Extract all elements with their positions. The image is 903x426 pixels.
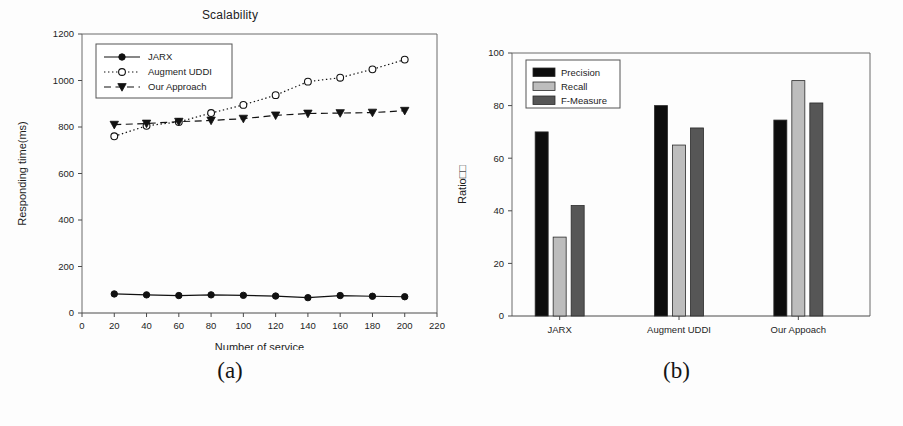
chart-b-legend-item[interactable]: F-Measure xyxy=(533,95,607,106)
chart-b-bar xyxy=(792,81,805,316)
chart-b-y-tick-label: 40 xyxy=(493,205,504,216)
chart-a-data-point xyxy=(337,292,343,298)
chart-a-x-tick-label: 200 xyxy=(397,320,413,331)
chart-a-x-tick-label: 0 xyxy=(79,320,84,331)
chart-a-x-tick-label: 60 xyxy=(174,320,185,331)
chart-a-data-point xyxy=(208,292,214,298)
chart-a-y-tick-label: 1200 xyxy=(53,28,74,39)
chart-b-y-axis-title: Ratio□□ xyxy=(456,165,468,204)
chart-a-series-jarx xyxy=(111,291,408,301)
chart-a-x-tick-label: 80 xyxy=(206,320,217,331)
panel-b-caption: (b) xyxy=(450,358,903,384)
chart-a-x-tick-label: 180 xyxy=(365,320,381,331)
chart-a-data-point xyxy=(369,66,376,73)
chart-a-plot: 0200400600800100012000204060801001201401… xyxy=(0,0,460,350)
chart-b-legend-label: Recall xyxy=(561,81,587,92)
chart-b-legend-label: Precision xyxy=(561,67,600,78)
chart-a-x-tick-label: 100 xyxy=(235,320,251,331)
chart-a-legend: JARXAugment UDDIOur Approach xyxy=(96,44,232,98)
chart-a-data-point xyxy=(305,294,311,300)
chart-a-y-tick-label: 0 xyxy=(69,307,74,318)
chart-a-data-point xyxy=(111,133,118,140)
chart-b-y-tick-label: 80 xyxy=(493,100,504,111)
chart-a-legend-label: Our Approach xyxy=(148,81,207,92)
chart-a-data-point xyxy=(272,92,279,99)
chart-b-legend-label: F-Measure xyxy=(561,95,607,106)
chart-b-group-our-appoach xyxy=(774,81,823,316)
chart-b-bar xyxy=(810,103,823,316)
chart-a-data-point xyxy=(208,110,215,117)
chart-b-legend-swatch xyxy=(533,96,555,105)
chart-b-legend-item[interactable]: Precision xyxy=(533,67,600,78)
chart-b-y-tick-label: 100 xyxy=(488,47,504,58)
chart-a-legend-label: Augment UDDI xyxy=(148,66,212,77)
chart-a-legend-marker xyxy=(119,54,125,60)
chart-b-legend-swatch xyxy=(533,68,555,77)
chart-a-y-tick-label: 200 xyxy=(58,261,74,272)
chart-a-data-point xyxy=(239,115,247,123)
chart-a-data-point xyxy=(240,102,247,109)
chart-b-bar xyxy=(774,120,787,316)
chart-b-bar xyxy=(673,145,686,316)
chart-b-bar xyxy=(535,132,548,316)
chart-a-line xyxy=(114,111,404,125)
chart-b-legend: PrecisionRecallF-Measure xyxy=(526,60,620,108)
chart-b-y-tick-label: 60 xyxy=(493,153,504,164)
chart-a-line xyxy=(114,294,404,298)
chart-a-data-point xyxy=(337,74,344,81)
chart-a-data-point xyxy=(402,294,408,300)
chart-a-data-point xyxy=(369,293,375,299)
chart-a-legend-label: JARX xyxy=(148,51,173,62)
chart-a-series-our-approach xyxy=(110,107,409,129)
chart-b-bar xyxy=(571,206,584,316)
chart-a-data-point xyxy=(272,293,278,299)
chart-a-data-point xyxy=(143,292,149,298)
chart-a-legend-marker xyxy=(119,69,126,76)
chart-a-x-tick-label: 220 xyxy=(429,320,445,331)
chart-a-data-point xyxy=(176,292,182,298)
chart-b-group-jarx xyxy=(535,132,584,316)
chart-b-group-augment-uddi xyxy=(655,106,704,316)
panel-a-caption: (a) xyxy=(0,358,460,384)
chart-b-y-tick-label: 0 xyxy=(499,310,504,321)
chart-a-x-tick-label: 140 xyxy=(300,320,316,331)
chart-a-y-tick-label: 1000 xyxy=(53,75,74,86)
chart-a-x-axis-title: Number of service xyxy=(215,341,304,350)
chart-b-bar xyxy=(655,106,668,316)
chart-a-x-tick-label: 20 xyxy=(109,320,120,331)
chart-a-y-tick-label: 400 xyxy=(58,214,74,225)
chart-a-data-point xyxy=(305,78,312,85)
figure-sheet: Scalability 0200400600800100012000204060… xyxy=(0,0,903,426)
chart-b-category-label: Augment UDDI xyxy=(647,324,711,335)
chart-a-y-tick-label: 800 xyxy=(58,121,74,132)
chart-b-plot: 020406080100Ratio□□JARXAugment UDDIOur A… xyxy=(450,0,903,350)
panel-a-scalability-chart: Scalability 0200400600800100012000204060… xyxy=(0,0,460,426)
chart-a-data-point xyxy=(111,291,117,297)
panel-b-ratio-chart: 020406080100Ratio□□JARXAugment UDDIOur A… xyxy=(450,0,903,426)
chart-a-data-point xyxy=(401,56,408,63)
chart-a-x-tick-label: 40 xyxy=(141,320,152,331)
chart-b-bar xyxy=(553,237,566,316)
chart-b-category-label: JARX xyxy=(548,324,573,335)
chart-b-y-tick-label: 20 xyxy=(493,258,504,269)
chart-a-data-point xyxy=(240,292,246,298)
chart-a-y-axis-title: Responding time(ms) xyxy=(16,121,28,226)
chart-b-bar xyxy=(691,128,704,316)
chart-a-x-tick-label: 160 xyxy=(332,320,348,331)
chart-a-x-tick-label: 120 xyxy=(268,320,284,331)
chart-b-category-label: Our Appoach xyxy=(771,324,826,335)
chart-a-y-tick-label: 600 xyxy=(58,168,74,179)
chart-b-legend-swatch xyxy=(533,82,555,91)
chart-b-legend-item[interactable]: Recall xyxy=(533,81,587,92)
